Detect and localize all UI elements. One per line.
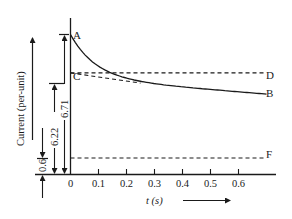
- current-decay-diagram: 00.10.20.30.40.50.6 A C D B F Current (p…: [0, 0, 292, 219]
- dim-06-label: 0.6: [37, 159, 48, 172]
- y-axis-label: Current (per-unit): [15, 71, 27, 146]
- x-tick-labels: 00.10.20.30.40.50.6: [68, 178, 245, 189]
- x-tick-label: 0.2: [120, 178, 133, 189]
- x-ticks: [99, 169, 239, 174]
- x-tick-label: 0.3: [148, 178, 161, 189]
- point-label-f: F: [266, 148, 272, 160]
- series-ab: [71, 35, 267, 95]
- x-axis-label: t (s): [146, 195, 163, 207]
- x-tick-label: 0.5: [204, 178, 217, 189]
- point-label-c: C: [73, 70, 80, 82]
- dim-622-label: 6.22: [49, 128, 60, 146]
- dim-671-label: 6.71: [59, 100, 70, 118]
- x-tick-label: 0: [68, 178, 73, 189]
- point-label-a: A: [73, 29, 81, 41]
- x-tick-label: 0.4: [176, 178, 190, 189]
- point-label-b: B: [266, 87, 273, 99]
- series-group: [71, 35, 267, 159]
- x-tick-label: 0.1: [92, 178, 105, 189]
- x-tick-label: 0.6: [232, 178, 245, 189]
- series-cb: [71, 73, 141, 83]
- point-label-d: D: [266, 69, 274, 81]
